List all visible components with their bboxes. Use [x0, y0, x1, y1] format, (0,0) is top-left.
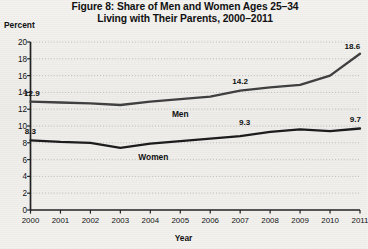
x-tick-label: 2000: [22, 216, 40, 225]
x-tick-label: 2007: [231, 216, 249, 225]
data-label-12-9: 12.9: [24, 88, 40, 97]
data-label-9-3: 9.3: [239, 118, 250, 127]
data-label-9-7: 9.7: [350, 115, 361, 124]
y-tick-label: 2: [5, 189, 27, 198]
x-tick-label: 2003: [112, 216, 130, 225]
y-tick-label: 10: [5, 122, 27, 131]
x-tick-label: 2005: [171, 216, 189, 225]
x-tick-label: 2006: [201, 216, 219, 225]
x-tick-label: 2010: [321, 216, 339, 225]
y-tick-label: 16: [5, 71, 27, 80]
x-tick-label: 2002: [82, 216, 100, 225]
y-tick-label: 4: [5, 172, 27, 181]
x-tick-label: 2009: [291, 216, 309, 225]
y-tick-label: 8: [5, 138, 27, 147]
x-tick-label: 2008: [261, 216, 279, 225]
x-tick-label: 2001: [52, 216, 70, 225]
series-label-women: Women: [138, 152, 168, 162]
y-tick-label: 12: [5, 105, 27, 114]
gridlines: [31, 42, 361, 193]
y-tick-label: 20: [5, 38, 27, 47]
x-tick-label: 2011: [352, 216, 368, 225]
data-label-18-6: 18.6: [345, 41, 361, 50]
data-label-14-2: 14.2: [232, 77, 248, 86]
y-tick-label: 6: [5, 155, 27, 164]
y-tick-label: 0: [5, 206, 27, 215]
y-tick-label: 18: [5, 54, 27, 63]
x-tick-label: 2004: [142, 216, 160, 225]
series-label-men: Men: [172, 109, 189, 119]
series-lines: [31, 54, 361, 148]
data-label-8-3: 8.3: [25, 127, 36, 136]
